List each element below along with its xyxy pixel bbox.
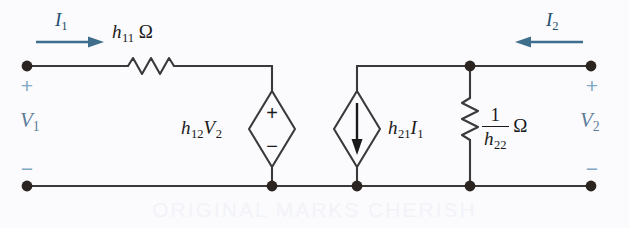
junction-dot-bottom-vsource <box>267 181 278 192</box>
series-resistor-zigzag <box>128 58 174 74</box>
input-current-arrow-icon <box>36 37 104 48</box>
output-current-label: I2 <box>546 10 559 32</box>
shunt-resistor-denominator: h22 <box>482 128 509 152</box>
junction-dot-top-shunt <box>465 61 476 72</box>
junction-dot-bottom-shunt <box>465 181 476 192</box>
dependent-current-source-label: h21I1 <box>388 118 424 140</box>
circuit-figure: ORIGINAL MARKS CHERISH <box>0 0 629 228</box>
input-current-label: I1 <box>55 10 68 32</box>
output-port-plus: + <box>583 75 601 96</box>
shunt-resistor-zigzag <box>462 98 478 140</box>
junction-dots <box>267 61 476 192</box>
input-port-minus: − <box>18 158 36 179</box>
current-source-arrow-icon <box>352 103 363 155</box>
output-voltage-label: V2 <box>580 110 600 134</box>
input-voltage-label: V1 <box>20 110 40 134</box>
series-resistor-label: h11 Ω <box>112 22 153 44</box>
terminal-dot-input-top <box>22 61 33 72</box>
fraction-bar <box>482 126 509 127</box>
junction-dot-bottom-isource <box>352 181 363 192</box>
dependent-voltage-source-plus: + <box>263 103 281 123</box>
terminal-dot-input-bottom <box>22 181 33 192</box>
terminal-dot-output-top <box>586 61 597 72</box>
shunt-resistor-numerator: 1 <box>482 105 509 126</box>
circuit-schematic <box>0 0 629 228</box>
dependent-voltage-source-minus: − <box>263 136 281 156</box>
terminal-dot-output-bottom <box>586 181 597 192</box>
shunt-resistor-unit: Ω <box>513 115 527 136</box>
dependent-voltage-source-label: h12V2 <box>181 118 222 140</box>
output-port-minus: − <box>583 158 601 179</box>
output-current-arrow-icon <box>515 37 583 48</box>
input-port-plus: + <box>18 75 36 96</box>
shunt-resistor-label: 1h22 Ω <box>482 104 527 151</box>
